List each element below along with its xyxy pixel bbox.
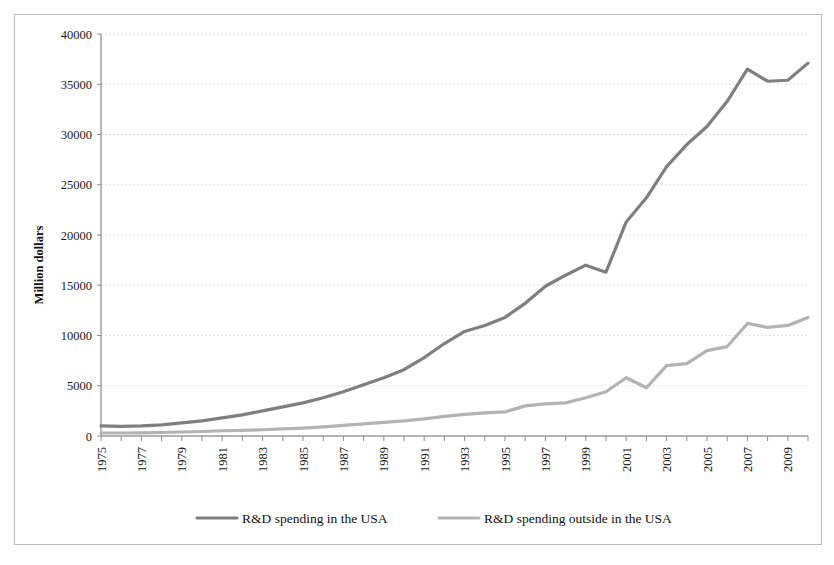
series-line-1: [101, 317, 808, 433]
y-axis-title: Million dollars: [32, 225, 46, 304]
svg-text:35000: 35000: [61, 78, 92, 92]
svg-text:1983: 1983: [256, 447, 270, 472]
gridlines-group: [101, 34, 808, 386]
svg-text:25000: 25000: [61, 178, 92, 192]
svg-text:40000: 40000: [61, 28, 92, 42]
tick-marks-group: [97, 34, 808, 441]
svg-text:1989: 1989: [377, 447, 391, 472]
svg-text:10000: 10000: [61, 329, 92, 343]
series-line-0: [101, 63, 808, 426]
chart-legend: R&D spending in the USAR&D spending outs…: [197, 511, 672, 526]
svg-text:1979: 1979: [175, 447, 189, 472]
svg-text:1975: 1975: [95, 447, 109, 472]
svg-text:1999: 1999: [579, 447, 593, 472]
svg-text:2007: 2007: [741, 447, 755, 472]
svg-text:20000: 20000: [61, 229, 92, 243]
svg-text:5000: 5000: [67, 379, 92, 393]
svg-text:2001: 2001: [620, 447, 634, 472]
svg-text:0: 0: [86, 430, 92, 444]
svg-text:30000: 30000: [61, 128, 92, 142]
svg-text:1991: 1991: [418, 447, 432, 472]
svg-text:2003: 2003: [660, 447, 674, 472]
svg-text:2009: 2009: [781, 447, 795, 472]
svg-text:1995: 1995: [499, 447, 513, 472]
legend-label-0: R&D spending in the USA: [242, 511, 388, 526]
svg-text:1981: 1981: [216, 447, 230, 472]
line-chart: 0500010000150002000025000300003500040000…: [15, 15, 821, 544]
svg-text:1977: 1977: [135, 447, 149, 472]
svg-text:2005: 2005: [701, 447, 715, 472]
svg-text:1987: 1987: [337, 447, 351, 472]
y-axis-tick-labels: 0500010000150002000025000300003500040000: [61, 28, 92, 444]
svg-text:1993: 1993: [458, 447, 472, 472]
x-axis-tick-labels: 1975197719791981198319851987198919911993…: [95, 447, 796, 472]
svg-text:1985: 1985: [297, 447, 311, 472]
svg-text:1997: 1997: [539, 447, 553, 472]
data-series-group: [101, 63, 808, 433]
legend-label-1: R&D spending outside in the USA: [484, 511, 672, 526]
svg-text:15000: 15000: [61, 279, 92, 293]
chart-figure: 0500010000150002000025000300003500040000…: [14, 14, 822, 545]
